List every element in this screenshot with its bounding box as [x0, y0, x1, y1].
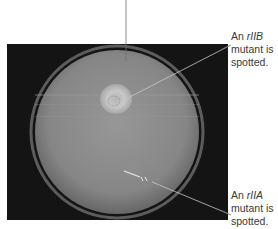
rIIB-label: An rIIB mutant is spotted. — [231, 30, 278, 69]
rIIA-label-line3: spotted. — [231, 215, 278, 228]
petri-dish-photo — [7, 44, 228, 220]
rIIA-label-line2: mutant is — [231, 202, 278, 215]
petri-dish-illustration — [7, 44, 228, 220]
rIIB-gene-name: rIIB — [247, 30, 263, 42]
rIIA-label-prefix: An — [231, 189, 247, 201]
rIIB-spot — [100, 84, 132, 114]
rIIB-label-prefix: An — [231, 30, 247, 42]
rIIB-label-line2: mutant is — [231, 43, 278, 56]
petri-dish-plate — [35, 50, 199, 214]
rIIA-gene-name: rIIA — [247, 189, 263, 201]
rIIA-label: An rIIA mutant is spotted. — [231, 189, 278, 228]
rIIB-label-line3: spotted. — [231, 56, 278, 69]
